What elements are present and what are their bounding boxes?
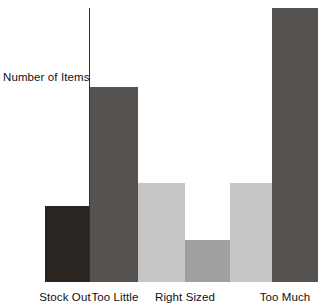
bar-too-much[interactable] — [272, 8, 318, 282]
bar-chart: Number of Items Stock Out Too Little Rig… — [0, 0, 323, 308]
bar-stock-out[interactable] — [45, 206, 90, 282]
bar-too-little[interactable] — [90, 87, 138, 282]
y-axis-line — [89, 8, 90, 282]
bar-right-sized-center[interactable] — [185, 240, 230, 282]
plot-area — [0, 0, 323, 308]
bar-right-sized-left[interactable] — [138, 183, 185, 282]
bar-right-sized-right[interactable] — [230, 183, 272, 282]
x-tick-label-too-much: Too Much — [247, 292, 323, 304]
y-axis-label: Number of Items — [3, 72, 90, 84]
x-tick-label-right-sized: Right Sized — [139, 292, 231, 304]
